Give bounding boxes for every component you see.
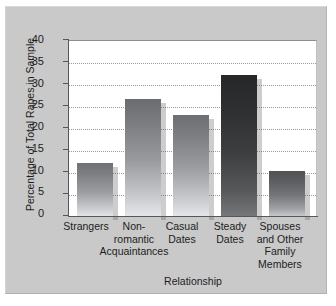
x-tick-line: Acquaintances (85, 245, 183, 258)
y-tick-label-40: 40 (18, 34, 44, 45)
bar-casual-dates-shadow (209, 119, 214, 220)
x-axis-title: Relationship (69, 275, 317, 287)
bar-strangers-body (77, 163, 113, 216)
chart-panel: Percentage of Total Rapes in Sample 40 3… (5, 6, 327, 294)
bar-spouses-family-shadow (305, 175, 310, 220)
bar-steady-dates-shadow (257, 79, 262, 220)
x-tick-line: Members (245, 258, 315, 271)
x-tick-line: Family (245, 245, 315, 258)
y-tick-label-30: 30 (18, 78, 44, 89)
bar-steady-dates[interactable] (221, 75, 257, 216)
bar-strangers-shadow (113, 167, 118, 220)
bar-spouses-family-body (269, 171, 305, 216)
y-tick-label-25: 25 (18, 99, 44, 110)
gridline-35 (69, 63, 316, 64)
y-tick-label-20: 20 (18, 121, 44, 132)
bar-spouses-family[interactable] (269, 171, 305, 216)
x-axis-line (68, 216, 318, 217)
x-tick-label-spouses-family: Spouses and Other Family Members (245, 220, 315, 270)
plot-inner (69, 41, 316, 216)
bar-casual-dates[interactable] (173, 115, 209, 216)
bar-non-romantic-acquaintances[interactable] (125, 99, 161, 216)
x-tick-line: Spouses (245, 220, 315, 233)
bar-steady-dates-body (221, 75, 257, 216)
y-tick-label-35: 35 (18, 56, 44, 67)
x-tick-line: and Other (245, 233, 315, 246)
plot-area (69, 40, 317, 216)
y-tick-label-0: 0 (18, 208, 44, 219)
y-tick-label-15: 15 (18, 143, 44, 154)
y-tick-label-5: 5 (18, 186, 44, 197)
bar-casual-dates-body (173, 115, 209, 216)
y-tick-label-10: 10 (18, 165, 44, 176)
bar-non-romantic-acquaintances-shadow (161, 103, 166, 220)
gridline-30 (69, 85, 316, 86)
bar-chart-figure: Percentage of Total Rapes in Sample 40 3… (0, 0, 336, 306)
bar-strangers[interactable] (77, 163, 113, 216)
bar-non-romantic-acquaintances-body (125, 99, 161, 216)
gridline-25 (69, 107, 316, 108)
